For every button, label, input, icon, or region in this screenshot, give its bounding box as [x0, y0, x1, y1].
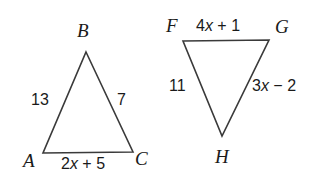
side-length-bc: 7 — [117, 92, 126, 108]
side-fg-coefficient: 4 — [196, 17, 205, 34]
vertex-label-h: H — [215, 147, 229, 166]
side-ac-constant: 5 — [96, 155, 105, 172]
side-expression-gh: 3x − 2 — [252, 78, 296, 94]
side-fg-variable: x — [205, 17, 213, 34]
side-expression-ac: 2x + 5 — [61, 156, 105, 172]
side-fg-operator: + — [213, 17, 231, 34]
vertex-label-g: G — [275, 17, 289, 36]
vertex-label-f: F — [166, 16, 178, 35]
side-gh-operator: − — [269, 77, 287, 94]
side-expression-fg: 4x + 1 — [196, 18, 240, 34]
side-gh-coefficient: 3 — [252, 77, 261, 94]
side-fg-constant: 1 — [231, 17, 240, 34]
side-length-ab: 13 — [31, 92, 49, 108]
vertex-label-a: A — [23, 151, 35, 170]
side-ac-operator: + — [78, 155, 96, 172]
geometry-figure: B C A 13 7 2x + 5 F G H 11 4x + 1 3x − 2 — [0, 0, 323, 179]
side-ac-coefficient: 2 — [61, 155, 70, 172]
side-gh-variable: x — [261, 77, 269, 94]
side-gh-constant: 2 — [287, 77, 296, 94]
side-ac-variable: x — [70, 155, 78, 172]
vertex-label-c: C — [135, 149, 148, 168]
vertex-label-b: B — [77, 21, 89, 40]
side-length-fh: 11 — [169, 78, 186, 94]
